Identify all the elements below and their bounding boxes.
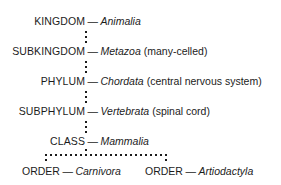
- taxon-name-vertebrata: Vertebrata: [101, 105, 150, 117]
- annotation-phylum: (central nervous system): [144, 75, 262, 87]
- branch-horizontal-line: [45, 154, 167, 156]
- taxon-name-animalia: Animalia: [101, 15, 141, 27]
- separator-dash: —: [85, 75, 101, 87]
- separator-dash: —: [85, 135, 101, 147]
- taxon-name-carnivora: Carnivora: [75, 165, 121, 177]
- separator-dash: —: [60, 165, 76, 177]
- branch-stub-right: [165, 154, 167, 161]
- rank-label-class: CLASS: [0, 135, 85, 147]
- taxon-name-mammalia: Mammalia: [101, 135, 149, 147]
- taxon-name-chordata: Chordata: [101, 75, 144, 87]
- rank-row-orders: ORDER—Carnivora ORDER—Artiodactyla: [0, 165, 281, 179]
- taxon-name-metazoa: Metazoa: [101, 45, 141, 57]
- branch-stub-left: [45, 154, 47, 161]
- separator-dash: —: [183, 165, 199, 177]
- taxon-name-artiodactyla: Artiodactyla: [198, 165, 253, 177]
- rank-label-subphylum: SUBPHYLUM: [0, 105, 85, 117]
- separator-dash: —: [85, 45, 101, 57]
- connector-phylum-subphylum: [85, 91, 87, 105]
- rank-label-order-right: ORDER: [145, 165, 183, 177]
- rank-label-kingdom: KINGDOM: [0, 15, 85, 27]
- annotation-subkingdom: (many-celled): [141, 45, 208, 57]
- rank-row-class: CLASS — Mammalia: [0, 135, 281, 149]
- rank-row-kingdom: KINGDOM — Animalia: [0, 15, 281, 29]
- rank-label-phylum: PHYLUM: [0, 75, 85, 87]
- separator-dash: —: [85, 15, 101, 27]
- connector-subphylum-class: [85, 121, 87, 135]
- connector-subkingdom-phylum: [85, 61, 87, 75]
- order-entry-artiodactyla: ORDER—Artiodactyla: [145, 165, 253, 177]
- order-entry-carnivora: ORDER—Carnivora: [22, 165, 121, 177]
- connector-kingdom-subkingdom: [85, 31, 87, 45]
- separator-dash: —: [85, 105, 101, 117]
- rank-label-order-left: ORDER: [22, 165, 60, 177]
- taxonomy-diagram: KINGDOM — Animalia SUBKINGDOM — Metazoa …: [0, 0, 281, 185]
- annotation-subphylum: (spinal cord): [149, 105, 210, 117]
- rank-label-subkingdom: SUBKINGDOM: [0, 45, 85, 57]
- rank-row-phylum: PHYLUM — Chordata (central nervous syste…: [0, 75, 281, 89]
- rank-row-subphylum: SUBPHYLUM — Vertebrata (spinal cord): [0, 105, 281, 119]
- rank-row-subkingdom: SUBKINGDOM — Metazoa (many-celled): [0, 45, 281, 59]
